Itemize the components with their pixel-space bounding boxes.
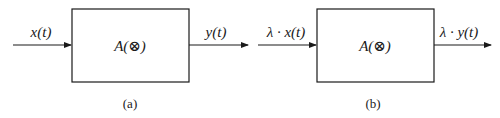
output-label-a: y(t) xyxy=(204,24,227,41)
block-label-a: A(⊗) xyxy=(113,38,146,55)
output-label-b: λ · y(t) xyxy=(439,24,479,41)
input-label-a: x(t) xyxy=(30,24,52,41)
block-label-b: A(⊗) xyxy=(358,38,391,55)
panel-a: x(t) A(⊗) y(t) (a) xyxy=(13,9,248,111)
panel-b: λ · x(t) A(⊗) λ · y(t) (b) xyxy=(258,9,491,111)
block-diagram: x(t) A(⊗) y(t) (a) λ · x(t) A(⊗) λ · y(t… xyxy=(0,0,500,118)
caption-b: (b) xyxy=(365,96,380,111)
input-label-b: λ · x(t) xyxy=(266,24,306,41)
caption-a: (a) xyxy=(123,96,137,111)
